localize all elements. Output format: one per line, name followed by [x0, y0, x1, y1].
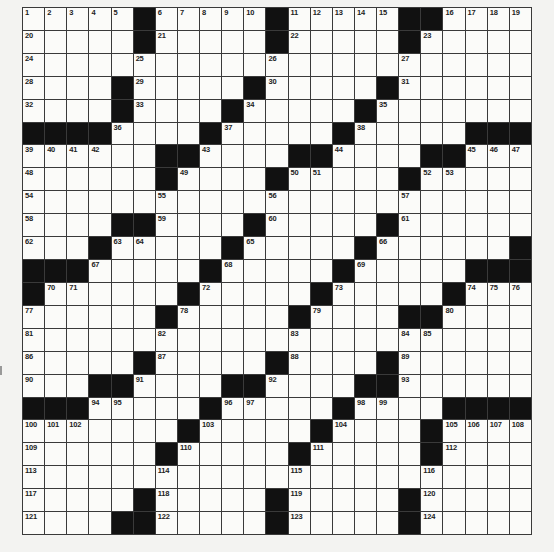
grid-cell[interactable]	[266, 237, 287, 259]
grid-cell[interactable]	[289, 260, 310, 282]
grid-cell[interactable]	[156, 398, 177, 420]
grid-cell[interactable]	[443, 214, 464, 236]
grid-cell[interactable]	[510, 100, 531, 122]
grid-cell[interactable]: 75	[488, 283, 509, 305]
grid-cell[interactable]	[200, 168, 221, 190]
grid-cell[interactable]	[266, 283, 287, 305]
grid-cell[interactable]: 57	[399, 191, 420, 213]
grid-cell[interactable]: 86	[23, 352, 44, 374]
grid-cell[interactable]	[421, 123, 442, 145]
grid-cell[interactable]: 51	[311, 168, 332, 190]
grid-cell[interactable]	[377, 54, 398, 76]
grid-cell[interactable]	[466, 100, 487, 122]
grid-cell[interactable]	[222, 306, 243, 328]
grid-cell[interactable]: 64	[134, 237, 155, 259]
grid-cell[interactable]	[399, 237, 420, 259]
grid-cell[interactable]	[289, 420, 310, 442]
grid-cell[interactable]: 104	[333, 420, 354, 442]
grid-cell[interactable]	[355, 489, 376, 511]
grid-cell[interactable]: 77	[23, 306, 44, 328]
grid-cell[interactable]	[45, 214, 66, 236]
grid-cell[interactable]	[333, 375, 354, 397]
grid-cell[interactable]	[421, 398, 442, 420]
grid-cell[interactable]	[222, 77, 243, 99]
grid-cell[interactable]: 80	[443, 306, 464, 328]
grid-cell[interactable]	[488, 443, 509, 465]
grid-cell[interactable]	[466, 191, 487, 213]
grid-cell[interactable]	[333, 306, 354, 328]
grid-cell[interactable]	[112, 466, 133, 488]
grid-cell[interactable]: 29	[134, 77, 155, 99]
grid-cell[interactable]	[244, 420, 265, 442]
grid-cell[interactable]	[134, 260, 155, 282]
grid-cell[interactable]	[178, 54, 199, 76]
grid-cell[interactable]: 13	[333, 8, 354, 30]
grid-cell[interactable]	[178, 260, 199, 282]
grid-cell[interactable]	[200, 191, 221, 213]
grid-cell[interactable]	[178, 214, 199, 236]
grid-cell[interactable]	[355, 283, 376, 305]
grid-cell[interactable]	[311, 512, 332, 534]
grid-cell[interactable]	[355, 54, 376, 76]
grid-cell[interactable]	[134, 466, 155, 488]
grid-cell[interactable]	[134, 443, 155, 465]
grid-cell[interactable]	[488, 512, 509, 534]
grid-cell[interactable]: 89	[399, 352, 420, 374]
grid-cell[interactable]: 41	[67, 145, 88, 167]
grid-cell[interactable]: 76	[510, 283, 531, 305]
grid-cell[interactable]	[134, 123, 155, 145]
grid-cell[interactable]: 59	[156, 214, 177, 236]
grid-cell[interactable]: 109	[23, 443, 44, 465]
grid-cell[interactable]	[244, 489, 265, 511]
grid-cell[interactable]	[466, 489, 487, 511]
grid-cell[interactable]: 72	[200, 283, 221, 305]
grid-cell[interactable]	[510, 306, 531, 328]
grid-cell[interactable]: 113	[23, 466, 44, 488]
grid-cell[interactable]	[134, 145, 155, 167]
grid-cell[interactable]: 36	[112, 123, 133, 145]
grid-cell[interactable]: 10	[244, 8, 265, 30]
grid-cell[interactable]: 15	[377, 8, 398, 30]
grid-cell[interactable]	[178, 512, 199, 534]
grid-cell[interactable]	[399, 100, 420, 122]
grid-cell[interactable]	[266, 329, 287, 351]
grid-cell[interactable]	[134, 191, 155, 213]
grid-cell[interactable]: 110	[178, 443, 199, 465]
grid-cell[interactable]	[222, 420, 243, 442]
grid-cell[interactable]: 17	[466, 8, 487, 30]
grid-cell[interactable]: 42	[89, 145, 110, 167]
grid-cell[interactable]	[156, 100, 177, 122]
grid-cell[interactable]: 124	[421, 512, 442, 534]
grid-cell[interactable]	[222, 466, 243, 488]
grid-cell[interactable]: 4	[89, 8, 110, 30]
grid-cell[interactable]	[134, 398, 155, 420]
grid-cell[interactable]	[510, 512, 531, 534]
grid-cell[interactable]	[466, 352, 487, 374]
grid-cell[interactable]: 95	[112, 398, 133, 420]
grid-cell[interactable]	[311, 100, 332, 122]
grid-cell[interactable]	[355, 31, 376, 53]
grid-cell[interactable]: 117	[23, 489, 44, 511]
grid-cell[interactable]	[488, 466, 509, 488]
grid-cell[interactable]	[266, 443, 287, 465]
grid-cell[interactable]	[89, 77, 110, 99]
grid-cell[interactable]	[89, 466, 110, 488]
grid-cell[interactable]	[466, 329, 487, 351]
grid-cell[interactable]	[45, 77, 66, 99]
grid-cell[interactable]	[399, 123, 420, 145]
grid-cell[interactable]: 20	[23, 31, 44, 53]
grid-cell[interactable]: 24	[23, 54, 44, 76]
grid-cell[interactable]	[178, 100, 199, 122]
grid-cell[interactable]	[311, 214, 332, 236]
grid-cell[interactable]	[67, 352, 88, 374]
grid-cell[interactable]	[200, 329, 221, 351]
grid-cell[interactable]	[45, 168, 66, 190]
grid-cell[interactable]	[399, 466, 420, 488]
grid-cell[interactable]: 45	[466, 145, 487, 167]
grid-cell[interactable]	[311, 352, 332, 374]
grid-cell[interactable]	[377, 31, 398, 53]
grid-cell[interactable]	[112, 54, 133, 76]
grid-cell[interactable]	[443, 375, 464, 397]
grid-cell[interactable]: 28	[23, 77, 44, 99]
grid-cell[interactable]	[244, 466, 265, 488]
